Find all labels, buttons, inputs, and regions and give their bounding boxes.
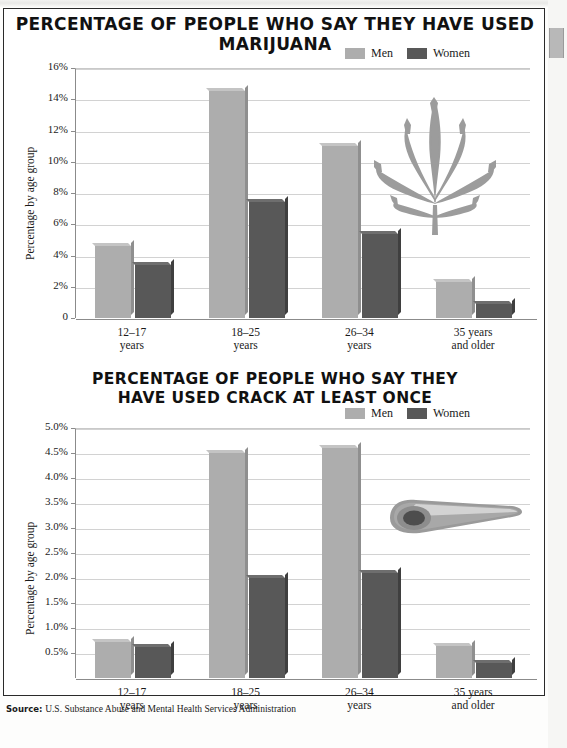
bar-women-3[interactable] — [476, 304, 512, 318]
legend-item-women[interactable]: Women — [407, 46, 470, 61]
y-axis-tick-label: 4.0% — [0, 470, 68, 482]
gridline — [76, 194, 530, 195]
x-axis-category-label: 12–17years — [75, 326, 189, 352]
gridline — [76, 579, 530, 580]
bar-women-0[interactable] — [135, 265, 171, 318]
y-axis-tick-mark — [71, 578, 75, 579]
x-axis-category-label: 26–34years — [303, 326, 417, 352]
y-axis-tick-label: 6% — [0, 216, 68, 228]
bar-women-2[interactable] — [362, 573, 398, 678]
y-axis-tick-mark — [71, 653, 75, 654]
y-axis-tick-mark — [71, 193, 75, 194]
y-axis-tick-label: 12% — [0, 123, 68, 135]
y-axis-tick-mark — [71, 131, 75, 132]
legend-label-men: Men — [371, 46, 393, 61]
gridline — [76, 504, 530, 505]
plot-canvas — [75, 428, 530, 678]
y-axis-tick-mark — [71, 224, 75, 225]
scan-band-top — [0, 0, 567, 7]
bar-men-2[interactable] — [322, 146, 358, 318]
plot-canvas — [75, 68, 530, 318]
y-axis-tick-mark — [71, 528, 75, 529]
bar-women-3[interactable] — [476, 663, 512, 678]
bar-women-2[interactable] — [362, 234, 398, 318]
y-axis-tick-label: 2.5% — [0, 545, 68, 557]
y-axis-tick-label: 2.0% — [0, 570, 68, 582]
y-axis-tick-label: 1.5% — [0, 595, 68, 607]
chart-marijuana-plot-area — [75, 68, 530, 318]
page-right-gutter — [548, 0, 567, 748]
gridline — [76, 225, 530, 226]
y-axis-tick-label: 3.5% — [0, 495, 68, 507]
y-axis-tick-label: 0.5% — [0, 645, 68, 657]
gridline — [76, 132, 530, 133]
bar-women-0[interactable] — [135, 647, 171, 678]
legend-swatch-men — [345, 48, 365, 59]
y-axis-tick-label: 14% — [0, 91, 68, 103]
gridline — [76, 100, 530, 101]
legend-label-women: Women — [433, 406, 470, 421]
legend-label-women: Women — [433, 46, 470, 61]
chart-legend: MenWomen — [345, 46, 470, 61]
bar-women-1[interactable] — [249, 578, 285, 678]
gridline — [76, 604, 530, 605]
gridline — [76, 629, 530, 630]
source-prefix: Source: — [6, 704, 42, 714]
y-axis-tick-label: 4.5% — [0, 445, 68, 457]
legend-item-men[interactable]: Men — [345, 406, 393, 421]
bar-men-3[interactable] — [436, 282, 472, 318]
legend-swatch-women — [407, 48, 427, 59]
legend-swatch-men — [345, 408, 365, 419]
bar-men-2[interactable] — [322, 448, 358, 678]
page: PERCENTAGE OF PEOPLE WHO SAY THEY HAVE U… — [0, 0, 567, 748]
y-axis-tick-mark — [71, 99, 75, 100]
gridline — [76, 479, 530, 480]
source-note: Source: U.S. Substance Abuse and Mental … — [6, 704, 296, 714]
x-axis-category-label: 35 yearsand older — [416, 686, 530, 712]
bar-men-3[interactable] — [436, 646, 472, 679]
x-axis-category-label: 26–34years — [303, 686, 417, 712]
gridline — [76, 454, 530, 455]
chart-legend: MenWomen — [345, 406, 470, 421]
gridline — [76, 163, 530, 164]
y-axis-tick-mark — [71, 318, 75, 319]
legend-label-men: Men — [371, 406, 393, 421]
y-axis-tick-label: 16% — [0, 60, 68, 72]
page-edge-tab[interactable] — [549, 28, 564, 58]
bar-women-1[interactable] — [249, 202, 285, 318]
chart-crack-title: PERCENTAGE OF PEOPLE WHO SAY THEYHAVE US… — [12, 370, 538, 408]
x-axis-line — [76, 319, 537, 320]
y-axis-tick-mark — [71, 603, 75, 604]
legend-swatch-women — [407, 408, 427, 419]
bar-men-1[interactable] — [209, 91, 245, 318]
y-axis-tick-label: 10% — [0, 154, 68, 166]
y-axis-tick-label: 8% — [0, 185, 68, 197]
y-axis-tick-mark — [71, 478, 75, 479]
y-axis-tick-mark — [71, 256, 75, 257]
chart-crack-plot-area — [75, 428, 530, 678]
y-axis-tick-mark — [71, 553, 75, 554]
legend-item-women[interactable]: Women — [407, 406, 470, 421]
gridline — [76, 529, 530, 530]
bar-men-0[interactable] — [95, 642, 131, 678]
y-axis-tick-label: 3.0% — [0, 520, 68, 532]
gridline — [76, 69, 530, 70]
bar-men-1[interactable] — [209, 453, 245, 678]
y-axis-tick-mark — [71, 428, 75, 429]
y-axis-tick-mark — [71, 287, 75, 288]
gridline — [76, 257, 530, 258]
bar-men-0[interactable] — [95, 246, 131, 318]
y-axis-tick-label: 4% — [0, 248, 68, 260]
y-axis-tick-label: 5.0% — [0, 420, 68, 432]
y-axis-tick-mark — [71, 68, 75, 69]
y-axis-tick-mark — [71, 628, 75, 629]
gridline — [76, 554, 530, 555]
legend-item-men[interactable]: Men — [345, 46, 393, 61]
x-axis-line — [76, 679, 537, 680]
y-axis-tick-mark — [71, 453, 75, 454]
y-axis-tick-mark — [71, 503, 75, 504]
y-axis-tick-mark — [71, 162, 75, 163]
y-axis-tick-label: 2% — [0, 279, 68, 291]
y-axis-tick-label: 0 — [0, 310, 68, 322]
x-axis-category-label: 35 yearsand older — [416, 326, 530, 352]
